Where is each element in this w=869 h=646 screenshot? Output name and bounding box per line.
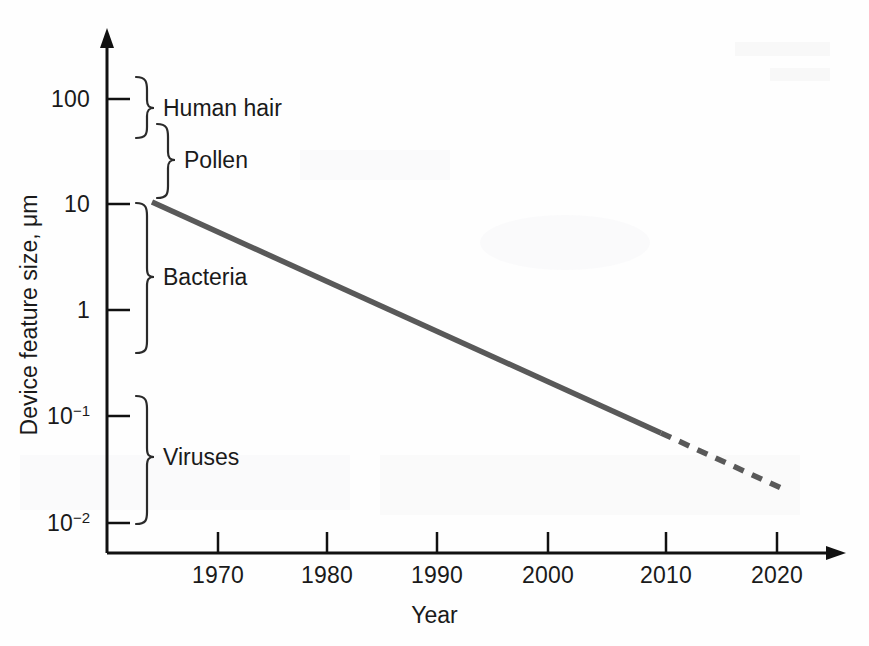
annotation-label-human-hair: Human hair <box>163 95 282 122</box>
xtick-label-1970: 1970 <box>192 562 244 589</box>
brace-viruses <box>136 396 154 524</box>
y-tick-marks <box>107 99 130 523</box>
annotation-label-viruses: Viruses <box>163 444 239 471</box>
xtick-label-1990: 1990 <box>411 562 463 589</box>
y-axis-title: Device feature size, μm <box>16 195 43 436</box>
y-axis-title-wrap: Device feature size, μm <box>14 155 44 475</box>
data-line-solid <box>152 202 661 433</box>
annotation-label-pollen: Pollen <box>184 147 248 174</box>
data-line-dashed <box>661 433 781 488</box>
ytick-label-10e-2: 10−2 <box>8 509 90 538</box>
x-axis-title: Year <box>0 602 869 629</box>
xtick-label-1980: 1980 <box>301 562 353 589</box>
x-tick-marks <box>218 532 777 553</box>
xtick-label-2020: 2020 <box>751 562 803 589</box>
brace-pollen <box>157 124 175 198</box>
y-axis <box>100 28 114 553</box>
plot-canvas <box>0 0 869 646</box>
annotation-label-bacteria: Bacteria <box>163 264 247 291</box>
brace-bacteria <box>136 203 154 353</box>
brace-human-hair <box>136 77 154 138</box>
ytick-label-100: 100 <box>18 85 90 114</box>
xtick-label-2000: 2000 <box>522 562 574 589</box>
chart-figure: 100 10 1 10−1 10−2 1970 1980 1990 2000 2… <box>0 0 869 646</box>
xtick-label-2010: 2010 <box>640 562 692 589</box>
